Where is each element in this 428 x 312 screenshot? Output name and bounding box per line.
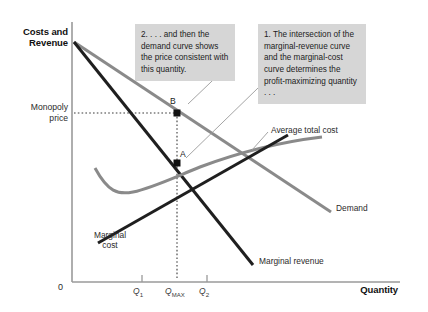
point-a-label: A — [180, 149, 186, 159]
tick-q1-sub: 1 — [140, 291, 143, 298]
average-total-cost-label: Average total cost — [271, 126, 338, 136]
tick-q2-base: Q — [199, 286, 206, 296]
callout-demand-price: 2. . . . and then the demand curve shows… — [135, 24, 235, 81]
monopoly-profit-maximization-diagram: Costs and Revenue Quantity 0 Monopoly pr… — [0, 0, 428, 312]
marginal-revenue-label: Marginal revenue — [259, 257, 324, 267]
marginal-cost-label: Marginal cost — [79, 231, 141, 251]
x-tick-label-q1: Q1 — [133, 286, 143, 298]
x-tick-label-q2: Q2 — [199, 286, 209, 298]
x-axis-title: Quantity — [330, 284, 398, 295]
tick-qmax-base: Q — [165, 286, 172, 296]
tick-q1-base: Q — [133, 286, 140, 296]
y-axis-title: Costs and Revenue — [8, 26, 68, 48]
point-a-marker — [174, 160, 181, 167]
tick-qmax-sub: MAX — [172, 292, 185, 298]
x-tick-label-qmax: QMAX — [165, 286, 185, 299]
point-b-label: B — [170, 96, 176, 106]
callout-profit-maximizing-quantity: 1. The intersection of the marginal-reve… — [258, 24, 366, 104]
point-b-marker — [174, 110, 181, 117]
monopoly-price-label: Monopoly price — [8, 102, 68, 124]
demand-label: Demand — [336, 204, 368, 214]
tick-q2-sub: 2 — [206, 291, 209, 298]
origin-label: 0 — [58, 282, 63, 293]
